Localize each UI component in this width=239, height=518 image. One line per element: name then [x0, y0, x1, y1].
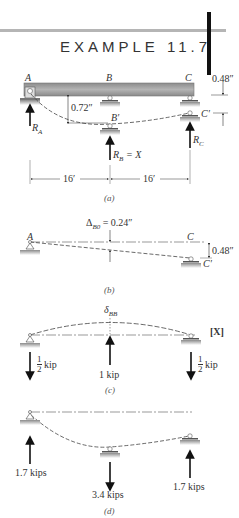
- point-c-label-b: C: [187, 232, 194, 242]
- reaction-rb-label: RB = X: [113, 150, 141, 163]
- reaction-ra-label: RA: [32, 123, 42, 136]
- delta-bb-label: δBB: [104, 305, 117, 318]
- point-c-label: C: [185, 73, 192, 83]
- caption-c: (c): [105, 385, 115, 395]
- dim-top-right: 0.48″: [212, 74, 234, 84]
- span-bc-label: 16′: [143, 174, 155, 184]
- figure-a-beam: [20, 82, 228, 184]
- load-right-d: 1.7 kips: [173, 482, 205, 492]
- point-a-label: A: [25, 73, 31, 83]
- caption-a: (a): [104, 193, 115, 203]
- redundant-x-label: [X]: [210, 327, 224, 337]
- figure-b-drawing: [20, 230, 212, 268]
- caption-b: (b): [104, 285, 115, 295]
- figure-d-drawing: [20, 411, 200, 488]
- load-center-d: 3.4 kips: [92, 490, 124, 500]
- point-a-label-b: A: [27, 232, 33, 242]
- delta-b0-label: ΔB0 = 0.24″: [86, 218, 133, 231]
- load-center-c: 1 kip: [99, 370, 119, 380]
- point-b-prime-label: B′: [111, 113, 119, 123]
- caption-d: (d): [104, 506, 115, 516]
- point-c-prime-label-b: C′: [203, 259, 212, 269]
- load-right-c: 12 kip: [198, 355, 218, 374]
- span-ab-label: 16′: [63, 174, 75, 184]
- load-left-c: 12 kip: [37, 355, 57, 374]
- point-b-label: B: [106, 73, 112, 83]
- load-left-d: 1.7 kips: [15, 468, 47, 478]
- reaction-rc-label: RC: [193, 135, 204, 148]
- example-title: EXAMPLE 11.7: [60, 38, 211, 55]
- dim-settlement-b: 0.48″: [212, 246, 234, 256]
- dim-b-deflection: 0.72″: [71, 103, 93, 113]
- point-c-prime-label: C′: [201, 109, 210, 119]
